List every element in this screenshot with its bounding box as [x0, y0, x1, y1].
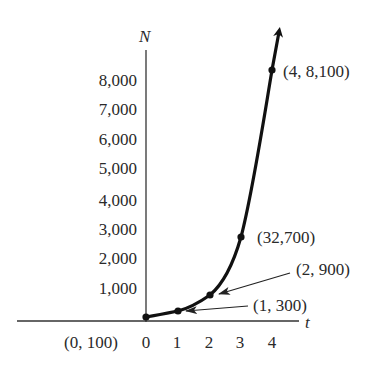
- annotation-arrow: [186, 306, 248, 311]
- annotation-label: (2, 900): [296, 260, 350, 279]
- annotation-label: (32,700): [257, 228, 315, 247]
- x-tick-label: 0: [142, 333, 151, 352]
- data-point: [142, 313, 149, 320]
- y-tick-label: 4,000: [99, 191, 137, 210]
- x-tick-label: 2: [205, 333, 214, 352]
- growth-curve: [146, 32, 279, 317]
- y-tick-label: 7,000: [99, 100, 137, 119]
- annotation-arrow: [219, 273, 290, 294]
- annotation-label: (1, 300): [253, 296, 307, 315]
- data-point: [268, 66, 275, 73]
- x-axis-label: t: [305, 313, 311, 332]
- x-tick-label: 1: [173, 333, 182, 352]
- annotation-label: (0, 100): [64, 333, 118, 352]
- x-tick-labels: 0 1 2 3 4: [142, 333, 277, 352]
- y-tick-labels: 8,000 7,000 6,000 5,000 4,000 3,000 2,00…: [99, 71, 137, 298]
- y-tick-label: 1,000: [99, 279, 137, 298]
- x-tick-label: 4: [268, 333, 277, 352]
- y-tick-label: 5,000: [99, 159, 137, 178]
- y-axis-label: N: [138, 27, 152, 46]
- data-point: [174, 307, 181, 314]
- annotation-label: (4, 8,100): [283, 62, 350, 81]
- data-point: [237, 233, 244, 240]
- data-point: [206, 291, 213, 298]
- y-tick-label: 2,000: [99, 249, 137, 268]
- data-points: [142, 66, 275, 320]
- exponential-growth-chart: N t 8,000 7,000 6,000 5,000 4,000 3,000 …: [0, 0, 385, 366]
- y-tick-label: 8,000: [99, 71, 137, 90]
- y-tick-label: 6,000: [99, 130, 137, 149]
- y-tick-label: 3,000: [99, 220, 137, 239]
- x-tick-label: 3: [236, 333, 245, 352]
